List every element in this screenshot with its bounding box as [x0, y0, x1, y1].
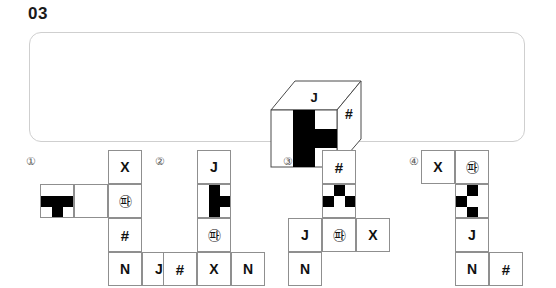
cube-right-face-label: # [345, 106, 353, 122]
stimulus-panel: J # [29, 32, 525, 142]
pattern-tile [41, 196, 52, 207]
question-number: 03 [28, 4, 48, 24]
option-2-cell: J [197, 150, 231, 184]
pattern-tile [209, 196, 220, 207]
option-2-cell: N [231, 252, 265, 286]
option-3-pattern-cell [322, 184, 356, 218]
cube-front-tile [315, 129, 337, 148]
option-1-cell: N [108, 252, 142, 286]
option-4-label: ④ [409, 156, 419, 167]
option-3-cell: J [288, 218, 322, 252]
option-1-cell: ㉺ [108, 184, 142, 218]
cube-front-tile [293, 148, 315, 167]
pattern-tile [220, 196, 231, 207]
pattern-tile [209, 185, 220, 196]
pattern-tile [52, 196, 63, 207]
pattern-tile [467, 207, 478, 218]
option-3-cell: X [356, 218, 390, 252]
option-2-cell: ㉺ [197, 218, 231, 252]
pattern-tile [52, 207, 63, 218]
cube-front-tile [293, 129, 315, 148]
option-4-pattern-cell [455, 184, 489, 218]
option-1-label: ① [26, 156, 36, 167]
pattern-tile [323, 196, 334, 207]
option-4-cell: X [421, 150, 455, 184]
pattern-tile [345, 196, 356, 207]
option-1-pattern-cell [40, 184, 74, 218]
pattern-tile [209, 207, 220, 218]
pattern-tile [63, 196, 74, 207]
cube-front-tile [293, 110, 315, 129]
option-1-cell: X [108, 150, 142, 184]
pattern-tile [334, 185, 345, 196]
option-3-cell: N [288, 252, 322, 286]
pattern-tile [456, 196, 467, 207]
option-2-label: ② [155, 156, 165, 167]
option-3-label: ③ [283, 156, 293, 167]
option-2-pattern-cell [197, 184, 231, 218]
option-2-cell: X [197, 252, 231, 286]
cube-top-face-label: J [310, 90, 317, 105]
option-4-cell: ㉺ [455, 150, 489, 184]
option-4-cell: N [455, 252, 489, 286]
option-4-cell: J [455, 218, 489, 252]
option-1-blank-cell [74, 184, 108, 218]
option-3-cell: ㉺ [322, 218, 356, 252]
option-3-cell: # [322, 150, 356, 184]
option-4-cell: # [489, 252, 523, 286]
option-1-cell: # [108, 218, 142, 252]
pattern-tile [467, 185, 478, 196]
option-2-cell: # [163, 252, 197, 286]
